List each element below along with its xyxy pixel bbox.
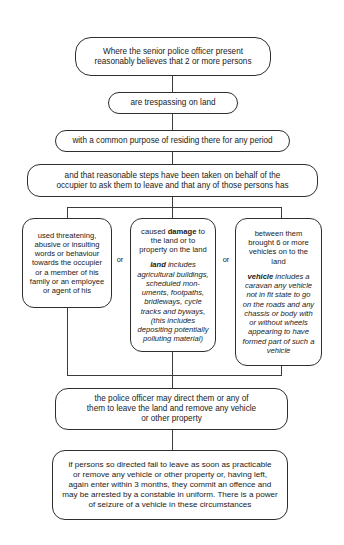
connector-merge-riser-left <box>67 308 68 375</box>
node-branch-damage-definition-text: includes agricultural buildings, schedul… <box>137 260 208 343</box>
node-senior-officer: Where the senior police officer present … <box>75 37 271 76</box>
node-senior-officer-line1: Where the senior police officer present <box>103 47 243 56</box>
node-branch-threatening-text: used threatening, abusive or insulting w… <box>29 231 105 296</box>
node-offence-line1: if persons so directed fail to leave as … <box>69 460 272 469</box>
node-offence: if persons so directed fail to leave as … <box>52 450 288 520</box>
connector-split-bus <box>67 207 281 208</box>
connector-label-or-right: or <box>219 255 233 264</box>
node-branch-vehicles: between them brought 6 or more vehicles … <box>235 218 322 366</box>
node-branch-vehicles-lead: between them brought 6 or more vehicles … <box>242 229 315 266</box>
node-branch-vehicles-definition: vehicle includes a caravan any vehicle n… <box>242 272 315 355</box>
node-branch-damage-lead-before: caused <box>141 227 168 236</box>
connector-label-or-left: or <box>113 255 127 264</box>
node-branch-damage-definition-term: land <box>150 260 166 269</box>
node-direction-line3: or other property <box>141 414 202 423</box>
node-branch-damage-definition: land includes agricultural buildings, sc… <box>137 260 209 343</box>
node-common-purpose: with a common purpose of residing there … <box>55 130 290 152</box>
node-direction: the police officer may direct them or an… <box>55 388 288 430</box>
node-direction-line1: the police officer may direct them or an… <box>94 394 248 403</box>
flowchart-canvas: Where the senior police officer present … <box>0 0 344 545</box>
node-offence-line3: again enter within 3 months, they commit… <box>69 480 272 489</box>
node-offence-line5: of seizure of a vehicle in these circums… <box>89 500 252 509</box>
node-branch-damage-lead: caused damage to the land or to property… <box>137 227 209 255</box>
node-branch-threatening: used threatening, abusive or insulting w… <box>22 218 112 308</box>
connector-merge-stem <box>172 375 173 388</box>
node-reasonable-steps-line2: occupier to ask them to leave and that a… <box>56 181 288 190</box>
connector-split-drop-left <box>67 207 68 218</box>
connector-merge-riser-right <box>281 366 282 375</box>
connector-split-drop-middle <box>172 207 173 218</box>
connector-merge-bus <box>67 375 282 376</box>
node-trespassing-text: are trespassing on land <box>115 98 231 108</box>
connector-common-purpose-to-reasonable-steps <box>172 152 173 164</box>
node-reasonable-steps-line1: and that reasonable steps have been take… <box>65 171 281 180</box>
node-trespassing: are trespassing on land <box>108 92 238 114</box>
connector-direction-to-offence <box>172 430 173 450</box>
connector-merge-riser-middle <box>172 352 173 375</box>
connector-split-stem <box>172 197 173 207</box>
node-branch-damage: caused damage to the land or to property… <box>130 218 216 352</box>
node-offence-line4: may be arrested by a constable in unifor… <box>62 490 277 499</box>
node-branch-vehicles-definition-text: includes a caravan any vehicle not in fi… <box>243 272 315 355</box>
node-reasonable-steps: and that reasonable steps have been take… <box>27 164 318 197</box>
connector-split-drop-right <box>281 207 282 218</box>
node-branch-vehicles-definition-term: vehicle <box>247 272 273 281</box>
node-direction-line2: them to leave the land and remove any ve… <box>87 404 256 413</box>
node-senior-officer-line2: reasonably believes that 2 or more perso… <box>94 57 251 66</box>
node-offence-line2: or remove any vehicle or other property … <box>73 470 267 479</box>
connector-senior-to-trespassing <box>172 76 173 92</box>
connector-trespassing-to-common-purpose <box>172 114 173 130</box>
node-common-purpose-text: with a common purpose of residing there … <box>62 136 283 146</box>
node-branch-damage-keyword: damage <box>168 227 197 236</box>
